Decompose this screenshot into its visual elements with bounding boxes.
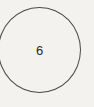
diagram-node-circle: 6 [0,7,81,93]
node-label: 6 [0,8,80,92]
